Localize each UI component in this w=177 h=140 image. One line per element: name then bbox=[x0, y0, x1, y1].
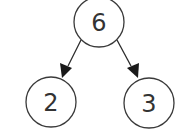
arrowhead-icon bbox=[60, 63, 72, 78]
edge-root-to-left bbox=[60, 40, 81, 78]
node-root-label: 6 bbox=[91, 9, 106, 37]
node-left: 2 bbox=[26, 77, 76, 127]
node-right-label: 3 bbox=[141, 90, 156, 118]
edge-root-to-right bbox=[117, 40, 139, 78]
node-left-label: 2 bbox=[43, 89, 58, 117]
node-root: 6 bbox=[74, 0, 124, 47]
node-right: 3 bbox=[124, 78, 174, 128]
arrowhead-icon bbox=[127, 63, 139, 78]
tree-diagram: 6 2 3 bbox=[0, 0, 177, 140]
